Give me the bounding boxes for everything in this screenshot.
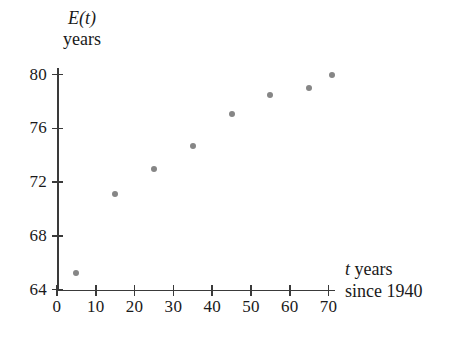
x-axis-tick-label: 70 <box>312 298 346 315</box>
x-axis-unit-label: years <box>355 259 393 279</box>
y-axis-tick-label: 80 <box>17 66 47 83</box>
x-axis-tick <box>328 285 330 296</box>
scatter-chart: E(t) years t years since 1940 6468727680… <box>0 0 464 347</box>
x-axis-tick-label: 40 <box>195 298 229 315</box>
data-point <box>73 270 79 276</box>
x-axis-tick-label: 60 <box>273 298 307 315</box>
x-axis-tick-label: 20 <box>118 298 152 315</box>
y-axis-tick <box>52 128 63 130</box>
x-axis-title: t years since 1940 <box>345 258 422 302</box>
y-axis-tick <box>52 235 63 237</box>
data-point <box>112 191 118 197</box>
x-axis-tick-label: 0 <box>40 298 74 315</box>
x-axis-subtitle-label: since 1940 <box>345 280 422 302</box>
y-axis-tick <box>52 74 63 76</box>
x-axis-tick-label: 10 <box>79 298 113 315</box>
y-axis-unit-label: years <box>46 29 118 50</box>
y-axis-tick-label: 64 <box>17 281 47 298</box>
data-point <box>229 111 235 117</box>
y-axis-tick <box>52 181 63 183</box>
x-axis-tick-label: 50 <box>234 298 268 315</box>
x-axis-tick-label: 30 <box>156 298 190 315</box>
data-point <box>151 166 157 172</box>
y-axis-variable-label: E(t) <box>68 8 96 28</box>
data-point <box>190 143 196 149</box>
x-axis-tick <box>250 285 252 296</box>
data-point <box>267 92 273 98</box>
y-axis-tick-label: 76 <box>17 119 47 136</box>
x-axis-tick <box>134 285 136 296</box>
y-axis-tick-label: 68 <box>17 227 47 244</box>
data-point <box>329 72 335 78</box>
y-axis-title: E(t) years <box>46 8 118 50</box>
x-axis-tick <box>95 285 97 296</box>
x-axis-tick <box>289 285 291 296</box>
x-axis-tick <box>173 285 175 296</box>
x-axis-line <box>57 290 335 292</box>
x-axis-tick <box>56 285 58 296</box>
y-axis-line <box>57 68 59 291</box>
y-axis-tick-label: 72 <box>17 173 47 190</box>
x-axis-tick <box>211 285 213 296</box>
data-point <box>306 85 312 91</box>
